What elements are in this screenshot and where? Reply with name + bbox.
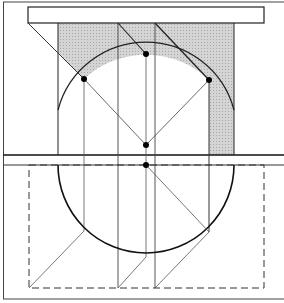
construction-drawing <box>0 0 284 303</box>
right-arc-point <box>206 77 212 83</box>
left-arc-point <box>81 76 87 82</box>
lower-diagonal-right <box>155 232 209 288</box>
top-bar <box>28 7 264 23</box>
lower-diagonal-left <box>29 231 84 288</box>
top-arc-point <box>143 51 149 57</box>
diagram-canvas <box>0 0 284 303</box>
lower-diagonal-mid <box>118 257 146 288</box>
upper-center-point <box>143 142 149 148</box>
lower-center-point <box>143 162 149 168</box>
diagonal-left-radius <box>84 79 146 145</box>
dashed-outline <box>29 165 264 288</box>
